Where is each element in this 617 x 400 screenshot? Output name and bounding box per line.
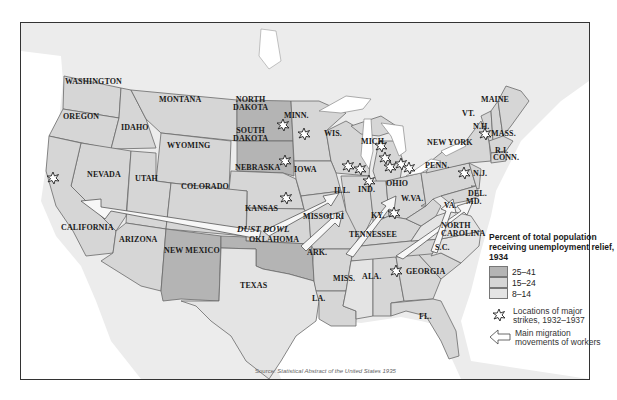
label-utah: UTAH [135, 175, 158, 183]
legend-label-high: 25–41 [512, 267, 536, 277]
label-colorado: COLORADO [181, 183, 229, 191]
legend-label-low: 8–14 [512, 289, 531, 299]
legend-strikes: Locations of major strikes, 1932–1937 [489, 307, 617, 325]
label-ky: KY. [371, 212, 385, 220]
label-tennessee: TENNESSEE [349, 231, 397, 239]
label-south-dakota: SOUTHDAKOTA [233, 127, 268, 143]
label-iowa: IOWA [294, 166, 317, 174]
label-minn: MINN. [284, 112, 309, 120]
label-wyoming: WYOMING [167, 142, 210, 150]
label-montana: MONTANA [159, 96, 201, 104]
legend-label-mid: 15–24 [512, 278, 536, 288]
label-ala: ALA. [362, 273, 381, 281]
label-la: LA. [312, 295, 325, 303]
label-oregon: OREGON [63, 113, 99, 121]
label-sc: S.C. [435, 244, 450, 252]
label-north-carolina: NORTHCAROLINA [441, 222, 485, 238]
label-mich: MICH. [361, 138, 386, 146]
label-maine: MAINE [481, 96, 509, 104]
label-new-york: NEW YORK [427, 139, 472, 147]
label-nevada: NEVADA [87, 171, 121, 179]
label-dust-bowl: DUST BOWL [237, 225, 290, 233]
legend-category-high: 25–41 [489, 266, 617, 277]
label-vt: VT. [462, 110, 475, 118]
label-ind: IND. [358, 186, 375, 194]
legend-migration: Main migration movements of workers [489, 329, 617, 347]
source-title: Statistical Abstract of the United State… [277, 368, 396, 374]
label-wis: WIS. [324, 130, 342, 138]
label-md: MD. [466, 198, 482, 206]
legend-category-mid: 15–24 [489, 277, 617, 288]
label-washington: WASHINGTON [65, 78, 122, 86]
label-penn: PENN. [425, 162, 449, 170]
label-fl: FL. [419, 313, 432, 321]
arrow-left-icon [489, 329, 511, 345]
state-new-mexico [161, 229, 221, 301]
source-prefix: Source: [255, 368, 277, 374]
legend: Percent of total population receiving un… [489, 232, 617, 347]
label-va: VA. [444, 202, 457, 210]
label-arizona: ARIZONA [119, 236, 157, 244]
label-ohio: OHIO [386, 180, 408, 188]
label-nebraska: NEBRASKA [235, 164, 280, 172]
swatch-mid [489, 277, 508, 288]
label-wva: W.VA. [401, 195, 423, 203]
legend-title: Percent of total population receiving un… [489, 232, 617, 262]
label-nh: N.H. [473, 123, 489, 131]
label-ill: ILL. [334, 187, 350, 195]
swatch-low [489, 288, 508, 299]
label-california: CALIFORNIA [61, 224, 114, 232]
label-oklahoma: OKLAHOMA [249, 236, 299, 244]
label-conn: CONN. [493, 154, 519, 162]
legend-strike-label: Locations of major strikes, 1932–1937 [513, 307, 593, 325]
label-ark: ARK. [307, 249, 327, 257]
label-new-mexico: NEW MEXICO [164, 247, 220, 255]
source-note: Source: Statistical Abstract of the Unit… [255, 368, 396, 374]
label-idaho: IDAHO [121, 124, 149, 132]
label-north-dakota: NORTHDAKOTA [233, 96, 268, 112]
label-miss: MISS. [333, 275, 355, 283]
legend-categories: 25–41 15–24 8–14 [489, 266, 617, 299]
label-texas: TEXAS [240, 282, 267, 290]
label-kansas: KANSAS [245, 205, 278, 213]
swatch-high [489, 266, 508, 277]
legend-category-low: 8–14 [489, 288, 617, 299]
legend-migration-label: Main migration movements of workers [515, 329, 615, 347]
strike-icon [489, 307, 509, 323]
label-missouri: MISSOURI [303, 213, 344, 221]
label-mass: MASS. [491, 130, 516, 138]
label-nj: N.J. [473, 170, 487, 178]
label-georgia: GEORGIA [406, 268, 445, 276]
